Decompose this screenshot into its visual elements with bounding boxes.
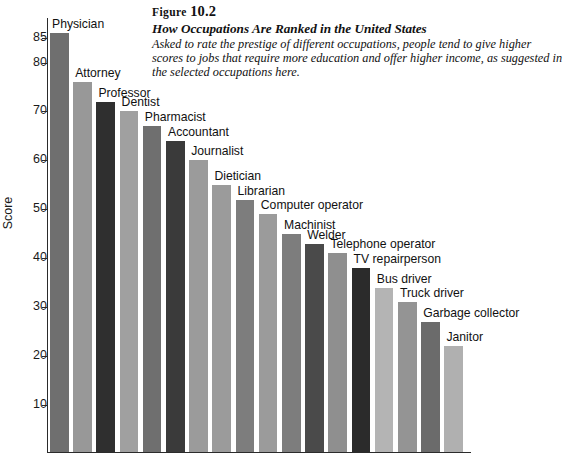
bar-chart: Score 858070605040302010 PhysicianAttorn…: [0, 0, 568, 460]
y-tick-mark: [42, 111, 47, 112]
bar: [166, 141, 185, 452]
y-tick-label: 10: [11, 397, 47, 411]
bar: [189, 160, 208, 452]
bar-label: Accountant: [168, 126, 229, 139]
bar-label: Journalist: [191, 145, 243, 158]
y-tick-mark: [42, 160, 47, 161]
y-tick-label: 85: [11, 30, 47, 44]
bar: [96, 102, 115, 452]
y-tick-mark: [42, 209, 47, 210]
y-tick-label: 30: [11, 299, 47, 313]
bar: [328, 253, 347, 452]
y-tick-label: 60: [11, 152, 47, 166]
bar: [120, 111, 139, 452]
bar-label: TV repairperson: [354, 253, 441, 266]
figure-container: Figure 10.2 How Occupations Are Ranked i…: [0, 0, 568, 460]
bar-label: Dentist: [122, 96, 160, 109]
bar: [236, 200, 255, 452]
bar: [212, 185, 231, 452]
bar: [259, 214, 278, 452]
bar: [421, 322, 440, 452]
y-tick-mark: [42, 38, 47, 39]
bar: [305, 244, 324, 452]
bar-label: Garbage collector: [423, 307, 519, 320]
bar-label: Janitor: [446, 331, 483, 344]
bar: [444, 346, 463, 452]
bar-label: Librarian: [238, 185, 285, 198]
bar-label: Attorney: [75, 67, 120, 80]
y-tick-mark: [42, 258, 47, 259]
bar: [143, 126, 162, 452]
y-tick-label: 40: [11, 250, 47, 264]
y-tick-label: 80: [11, 55, 47, 69]
x-axis-line: [47, 452, 471, 453]
y-tick-label: 50: [11, 201, 47, 215]
bar: [73, 82, 92, 452]
bar: [352, 268, 371, 452]
y-tick-label: 70: [11, 103, 47, 117]
bar-label: Computer operator: [261, 199, 363, 212]
bar: [375, 288, 394, 452]
bar-label: Telephone operator: [330, 238, 435, 251]
bar: [398, 302, 417, 452]
bar-label: Pharmacist: [145, 111, 206, 124]
bar-label: Dietician: [214, 170, 261, 183]
y-tick-mark: [42, 356, 47, 357]
y-tick-label: 20: [11, 348, 47, 362]
bar-label: Bus driver: [377, 273, 432, 286]
y-tick-mark: [42, 63, 47, 64]
y-axis-line: [47, 18, 48, 453]
bar: [50, 33, 69, 452]
y-tick-mark: [42, 405, 47, 406]
bar: [282, 234, 301, 452]
bar-label: Physician: [52, 18, 104, 31]
y-tick-mark: [42, 307, 47, 308]
bar-label: Truck driver: [400, 287, 464, 300]
